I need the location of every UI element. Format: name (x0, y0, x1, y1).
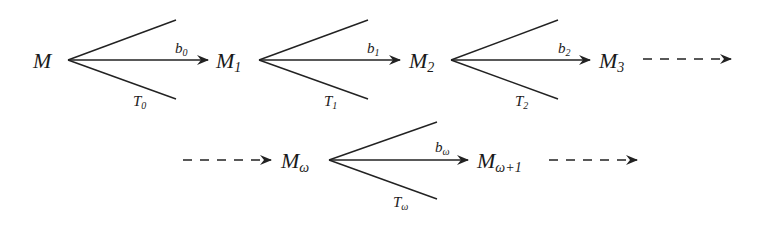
label-T1: T1 (324, 93, 337, 111)
node-M-omega-plus-1: Mω+1 (476, 148, 522, 175)
fork-lower-branch (68, 60, 176, 99)
label-T-omega: Tω (393, 194, 408, 212)
fork-lower-branch (451, 60, 558, 99)
diagram-canvas: M b0 T0 M1 b1 T1 M2 b2 T2 M3 (0, 0, 759, 228)
fork-lower-branch (329, 160, 437, 199)
svg-text:M: M (32, 48, 53, 73)
label-b-omega: bω (435, 139, 450, 157)
label-T0: T0 (133, 93, 146, 111)
label-b0: b0 (175, 40, 188, 58)
label-T2: T2 (515, 93, 528, 111)
svg-text:M3: M3 (598, 48, 624, 75)
fork-upper-branch (259, 20, 368, 60)
svg-text:Mω+1: Mω+1 (476, 148, 522, 175)
fork-lower-branch (259, 60, 368, 99)
fork-omega: bω Tω (329, 122, 468, 212)
node-M2: M2 (408, 48, 434, 75)
svg-text:M2: M2 (408, 48, 434, 75)
node-M-omega: Mω (280, 148, 309, 175)
label-b2: b2 (558, 40, 571, 58)
fork-upper-branch (68, 20, 176, 60)
fork-upper-branch (451, 20, 558, 60)
svg-text:Mω: Mω (280, 148, 309, 175)
fork-0: b0 T0 (68, 20, 208, 111)
node-M1: M1 (215, 48, 241, 75)
label-b1: b1 (367, 40, 380, 58)
fork-1: b1 T1 (259, 20, 400, 111)
node-M3: M3 (598, 48, 624, 75)
fork-2: b2 T2 (451, 20, 590, 111)
fork-upper-branch (329, 122, 437, 160)
node-M: M (32, 48, 53, 73)
svg-text:M1: M1 (215, 48, 241, 75)
